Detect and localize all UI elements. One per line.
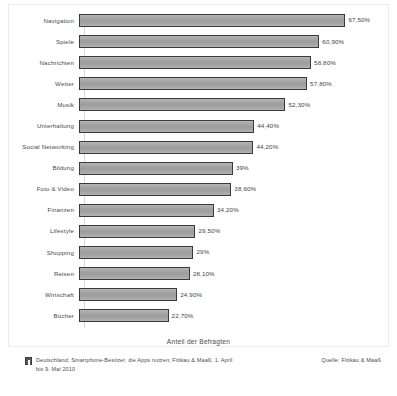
category-label: Finanzen [8,207,79,213]
category-label: Bildung [8,165,79,171]
bar-row: Social Networking44,20% [8,137,389,158]
bar-value-label: 52,30% [288,102,310,108]
bar[interactable] [79,162,233,175]
bar-track: 44,40% [79,115,389,136]
bar-track: 52,30% [79,94,389,115]
bar-track: 29% [79,242,389,263]
category-label: Musik [8,102,79,108]
bar-row: Wetter57,80% [8,73,389,94]
category-label: Navigation [8,18,79,24]
category-label: Unterhaltung [8,123,79,129]
bar-track: 29,50% [79,221,389,242]
bar-value-label: 57,80% [310,81,332,87]
bar-track: 28,10% [79,263,389,284]
info-icon[interactable] [25,357,32,365]
bar-value-label: 60,90% [322,39,344,45]
bar-value-label: 39% [236,165,249,171]
bar-value-label: 58,80% [314,60,336,66]
category-label: Lifestyle [8,228,79,234]
bar-value-label: 29% [196,249,209,255]
bar-track: 57,80% [79,73,389,94]
bar-row: Finanzen34,20% [8,200,389,221]
bar[interactable] [79,309,169,322]
bar-track: 38,60% [79,179,389,200]
bar-row: Reisen28,10% [8,263,389,284]
bar-value-label: 34,20% [217,207,239,213]
bar-track: 34,20% [79,200,389,221]
bar-value-label: 44,40% [257,123,279,129]
bar[interactable] [79,14,345,27]
category-label: Foto & Video [8,186,79,192]
bar-row: Bücher22,70% [8,305,389,326]
bar-track: 24,90% [79,284,389,305]
category-label: Shopping [8,250,79,256]
bar-row: Spiele60,90% [8,31,389,52]
bar-row: Wirtschaft24,90% [8,284,389,305]
bar[interactable] [79,246,193,259]
bar-value-label: 22,70% [172,313,194,319]
footnote: Deutschland; Smartphone-Besitzer, die Ap… [25,356,236,373]
bar-row: Lifestyle29,50% [8,221,389,242]
bar[interactable] [79,56,311,69]
bar-value-label: 28,10% [193,271,215,277]
chart-footer: Deutschland; Smartphone-Besitzer, die Ap… [0,356,397,386]
bar[interactable] [79,98,285,111]
source-text: Quelle: Fittkau & Maaß [321,357,381,363]
bar-track: 39% [79,158,389,179]
category-label: Wetter [8,81,79,87]
bar-track: 60,90% [79,31,389,52]
bar-row: Unterhaltung44,40% [8,115,389,136]
bar-row: Musik52,30% [8,94,389,115]
bar[interactable] [79,141,253,154]
bar-value-label: 38,60% [234,186,256,192]
bar[interactable] [79,288,177,301]
bar[interactable] [79,183,231,196]
bar-row: Navigation67,50% [8,10,389,31]
bar-value-label: 29,50% [198,228,220,234]
bar[interactable] [79,204,214,217]
bar-series: Navigation67,50%Spiele60,90%Nachrichten5… [8,10,389,326]
bar[interactable] [79,77,307,90]
bar[interactable] [79,267,190,280]
bar-value-label: 44,20% [256,144,278,150]
category-label: Social Networking [8,144,79,150]
footnote-text: Deutschland; Smartphone-Besitzer, die Ap… [36,356,236,373]
bar-track: 22,70% [79,305,389,326]
x-axis-title: Anteil der Befragten [0,338,397,345]
category-label: Wirtschaft [8,292,79,298]
bar[interactable] [79,35,319,48]
chart-container: Navigation67,50%Spiele60,90%Nachrichten5… [0,0,397,396]
bar-row: Nachrichten58,80% [8,52,389,73]
plot-area: Navigation67,50%Spiele60,90%Nachrichten5… [8,10,389,332]
bar-track: 67,50% [79,10,389,31]
bar[interactable] [79,225,195,238]
bar-value-label: 67,50% [348,17,370,23]
bar-row: Shopping29% [8,242,389,263]
bar[interactable] [79,120,254,133]
category-label: Reisen [8,271,79,277]
bar-track: 58,80% [79,52,389,73]
category-label: Nachrichten [8,60,79,66]
bar-row: Foto & Video38,60% [8,179,389,200]
category-label: Spiele [8,39,79,45]
bar-track: 44,20% [79,137,389,158]
bar-value-label: 24,90% [180,292,202,298]
category-label: Bücher [8,313,79,319]
bar-row: Bildung39% [8,158,389,179]
